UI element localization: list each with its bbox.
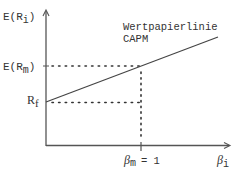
security-market-line bbox=[46, 37, 218, 102]
line-subtitle: CAPM bbox=[123, 33, 148, 45]
line-title: Wertpapierlinie bbox=[123, 21, 218, 33]
y-axis-label: E(Ri) bbox=[3, 11, 35, 26]
beta-m-label: βm= 1 bbox=[123, 153, 160, 169]
erm-label: E(Rm) bbox=[3, 61, 35, 76]
x-axis-label: βi bbox=[216, 153, 229, 170]
rf-label: Rf bbox=[27, 93, 39, 109]
capm-chart: E(Ri) E(Rm) Rf Wertpapierlinie CAPM βm= … bbox=[0, 0, 236, 173]
